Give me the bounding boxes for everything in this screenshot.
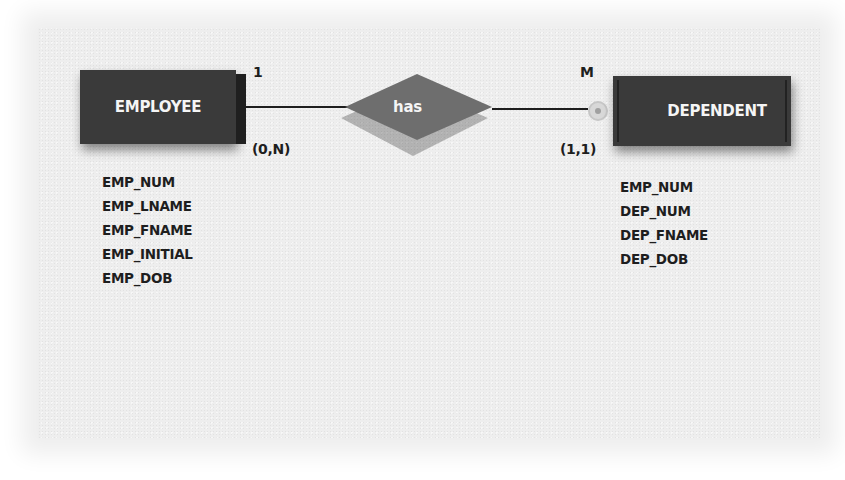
entity-dependent[interactable]: DEPENDENT (613, 76, 791, 146)
attribute: EMP_NUM (102, 170, 193, 194)
right-connectivity: M (580, 64, 594, 80)
relationship-label: has (393, 98, 422, 116)
attribute: EMP_INITIAL (102, 242, 193, 266)
entity-depth-edge (236, 74, 246, 144)
attribute: DEP_DOB (620, 247, 708, 271)
attribute: EMP_NUM (620, 175, 708, 199)
right-cardinality: (1,1) (560, 141, 596, 157)
weak-entity-inner-border (617, 80, 787, 142)
left-cardinality: (0,N) (252, 141, 290, 157)
attribute: EMP_DOB (102, 266, 193, 290)
optional-circle-center-icon (595, 108, 601, 114)
left-connectivity: 1 (253, 64, 262, 80)
entity-employee[interactable]: EMPLOYEE (80, 70, 236, 144)
attribute: DEP_FNAME (620, 223, 708, 247)
entity-employee-title: EMPLOYEE (115, 98, 201, 116)
attribute: EMP_FNAME (102, 218, 193, 242)
attribute: DEP_NUM (620, 199, 708, 223)
employee-attribute-list: EMP_NUM EMP_LNAME EMP_FNAME EMP_INITIAL … (102, 170, 193, 290)
dependent-attribute-list: EMP_NUM DEP_NUM DEP_FNAME DEP_DOB (620, 175, 708, 271)
attribute: EMP_LNAME (102, 194, 193, 218)
